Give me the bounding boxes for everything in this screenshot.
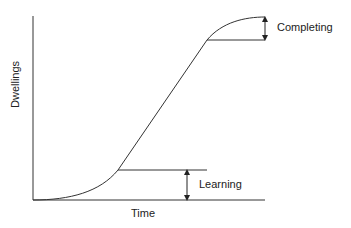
x-axis-label: Time xyxy=(131,207,155,219)
learning-label: Learning xyxy=(199,178,242,190)
s-curve-diagram xyxy=(0,0,351,228)
s-curve-line xyxy=(33,17,265,200)
y-axis-label: Dwellings xyxy=(9,61,21,108)
completing-label: Completing xyxy=(277,21,333,33)
